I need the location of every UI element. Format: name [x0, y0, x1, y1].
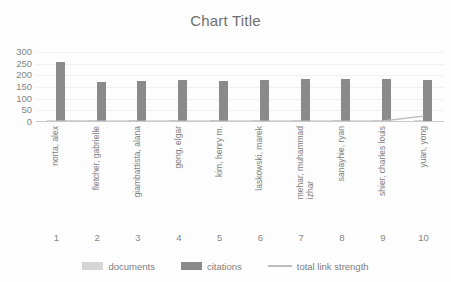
category-label: norta, alex: [51, 126, 61, 166]
category-label: fletcher, gabrielle: [92, 126, 102, 190]
category-label: yuan, yong: [419, 126, 429, 168]
category-index: 7: [281, 232, 322, 243]
category-index-row: 12345678910: [36, 232, 444, 246]
category-label: laskowski, marek: [255, 126, 265, 191]
category-labels: norta, alexfletcher, gabriellegiambattis…: [36, 126, 444, 230]
legend-line-total-link-strength: [268, 265, 292, 267]
category-label: mehar, muhammad izhar: [296, 126, 316, 199]
legend-label-total-link-strength: total link strength: [297, 261, 369, 272]
chart-title: Chart Title: [0, 12, 451, 29]
category-index: 10: [403, 232, 444, 243]
category-index: 8: [322, 232, 363, 243]
legend-swatch-documents: [82, 262, 103, 270]
x-axis-line: [36, 121, 444, 122]
y-axis-tick-250: 250: [0, 59, 32, 69]
plot-area: [36, 52, 444, 122]
category-index: 9: [362, 232, 403, 243]
legend-label-citations: citations: [207, 261, 242, 272]
category-index: 3: [118, 232, 159, 243]
total-link-strength-line: [36, 52, 444, 122]
category-index: 2: [77, 232, 118, 243]
chart-container: Chart Title 300250200150100500 norta, al…: [0, 0, 451, 282]
category-label: sanayhie, ryan: [337, 126, 347, 181]
y-axis-tick-150: 150: [0, 82, 32, 92]
y-axis-tick-0: 0: [0, 117, 32, 127]
category-label: giambattista, alana: [133, 126, 143, 197]
chart-legend: documents citations total link strength: [0, 258, 451, 274]
category-index: 6: [240, 232, 281, 243]
category-index: 5: [199, 232, 240, 243]
y-axis: 300250200150100500: [0, 45, 32, 129]
y-axis-tick-50: 50: [0, 105, 32, 115]
category-label: gong, elgar: [174, 126, 184, 169]
legend-label-documents: documents: [108, 261, 154, 272]
category-label: shier, charles louis: [378, 126, 388, 196]
y-axis-tick-300: 300: [0, 47, 32, 57]
legend-item-documents[interactable]: documents: [82, 261, 154, 272]
legend-swatch-citations: [181, 262, 202, 270]
y-axis-tick-200: 200: [0, 70, 32, 80]
legend-item-citations[interactable]: citations: [181, 261, 242, 272]
y-axis-tick-100: 100: [0, 94, 32, 104]
category-index: 4: [158, 232, 199, 243]
category-label: kim, henry m.: [215, 126, 225, 177]
legend-item-total-link-strength[interactable]: total link strength: [268, 261, 369, 272]
category-index: 1: [36, 232, 77, 243]
